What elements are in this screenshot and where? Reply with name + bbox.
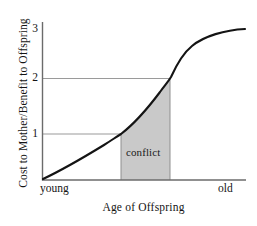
y-axis-title: Cost to Mother/Benefit to Offspring (17, 18, 29, 188)
x-tick-label-young: young (40, 182, 69, 194)
chart-figure: 3 2 1 young old conflict Cost to Mother/… (0, 0, 257, 226)
x-tick-label-old: old (218, 182, 233, 194)
x-axis-title: Age of Offspring (42, 201, 245, 213)
conflict-region-label: conflict (126, 146, 160, 158)
